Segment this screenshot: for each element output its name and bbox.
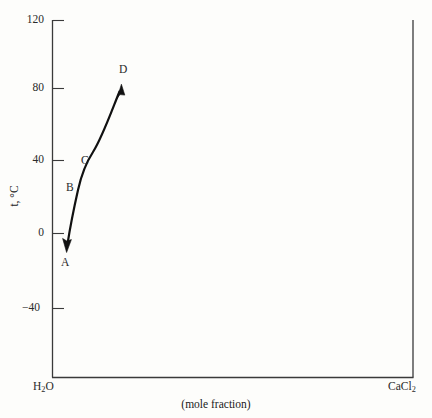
arrowhead-d (117, 84, 125, 98)
solubility-curve (63, 84, 125, 252)
curve-point-label-a: A (61, 257, 69, 269)
x-axis-left-endpoint: H2O (33, 381, 54, 394)
x-axis-caption: (mole fraction) (0, 398, 432, 410)
y-tick-label-minus40: −40 (4, 302, 40, 314)
y-tick-label-120: 120 (8, 14, 44, 26)
y-tick-label-40: 40 (8, 154, 44, 166)
curve-point-label-b: B (66, 182, 74, 194)
y-tick-label-80: 80 (8, 82, 44, 94)
y-tick-label-0: 0 (8, 227, 44, 239)
y-axis-title: t, °C (8, 169, 20, 223)
x-left-formula-post: O (45, 380, 53, 392)
x-right-formula-pre: CaCl (388, 380, 412, 392)
phase-diagram-figure: 120 80 40 0 −40 t, °C A B C D H2O CaCl2 … (0, 0, 432, 418)
chart-canvas (0, 0, 432, 418)
curve-point-label-d: D (119, 64, 127, 76)
x-right-formula-sub: 2 (412, 385, 416, 394)
axis-lines (52, 20, 414, 378)
curve-point-label-c: C (81, 155, 89, 167)
x-axis-right-endpoint: CaCl2 (388, 381, 416, 394)
